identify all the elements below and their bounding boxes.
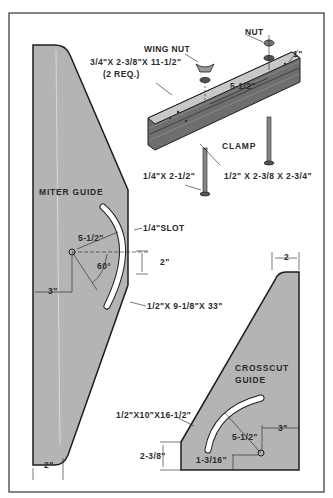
crosscut-title-line1: CROSSCUT: [235, 364, 289, 373]
miter-size-label: 1/2"X 9-1/8"X 33": [147, 302, 223, 311]
board-qty-label: (2 REQ.): [103, 70, 140, 79]
nut-label: NUT: [245, 28, 264, 37]
thickness-dim: 1": [293, 50, 303, 59]
crosscut-title-line2: GUIDE: [235, 376, 266, 385]
miter-bottom-dim: 2": [44, 461, 54, 470]
bolt-spacing-dim: 5-1/2": [230, 82, 256, 91]
crosscut-size-label: 1/2"X10"X16-1/2": [116, 411, 191, 420]
miter-guide-title: MITER GUIDE: [39, 188, 104, 197]
pivot-offset-dim: 3": [48, 287, 58, 296]
crosscut-guide-panel: [160, 252, 299, 470]
wing-nut-label: WING NUT: [144, 45, 190, 54]
crosscut-pivot-height-dim: 1-3/16": [196, 456, 227, 465]
board-size-label: 3/4"X 2-3/8"X 11-1/2": [90, 58, 181, 67]
miter-vertical-dim: 2": [160, 258, 170, 267]
bolt-size-label: 1/4"X 2-1/2": [143, 172, 195, 181]
block-size-label: 1/2" X 2-3/8 X 2-3/4": [224, 172, 312, 181]
miter-angle-dim: 60°: [97, 262, 111, 271]
miter-radius-dim: 5-1/2": [78, 234, 104, 243]
clamp-label: CLAMP: [222, 142, 256, 151]
jig-diagram: NUT WING NUT 1" 3/4"X 2-3/8"X 11-1/2" (2…: [0, 0, 333, 498]
crosscut-height-dim: 2-3/8": [140, 452, 166, 461]
crosscut-top-dim: 2: [284, 253, 289, 262]
slot-width-label: 1/4"SLOT: [143, 224, 185, 233]
crosscut-radius-dim: 5-1/2": [232, 433, 258, 442]
crosscut-edge-offset-dim: 3": [278, 424, 288, 433]
